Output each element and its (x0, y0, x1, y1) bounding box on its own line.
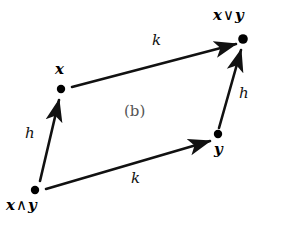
commutative-diagram: x∧y x y x∨y k k h h (b) (0, 0, 283, 225)
node-label-y: y (214, 142, 223, 157)
edge-label-k-bottom: k (131, 171, 140, 186)
node-dot-x (57, 85, 65, 93)
edge-k-top-line (72, 44, 236, 87)
node-label-meet: x∧y (6, 198, 37, 213)
figure-caption: (b) (124, 104, 145, 119)
node-dot-meet (31, 186, 39, 194)
join-operator-symbol: ∨ (222, 6, 235, 24)
node-label-x-text: x (55, 60, 64, 78)
node-label-join-left: x (213, 6, 222, 24)
node-label-x: x (55, 62, 64, 77)
node-label-meet-left: x (6, 196, 15, 214)
node-label-meet-right: y (28, 196, 37, 214)
node-dot-y (214, 130, 222, 138)
node-label-join: x∨y (213, 8, 244, 23)
meet-operator-symbol: ∧ (15, 196, 28, 214)
node-label-y-text: y (214, 140, 223, 158)
edge-h-left-line (40, 100, 59, 181)
node-label-join-right: y (235, 6, 244, 24)
edge-h-right-line (219, 50, 241, 128)
edge-label-h-right: h (239, 86, 249, 101)
node-dot-join (238, 34, 248, 44)
edge-label-h-left: h (25, 126, 35, 141)
edge-label-k-top: k (152, 33, 161, 48)
edge-k-bottom-line (46, 141, 210, 189)
